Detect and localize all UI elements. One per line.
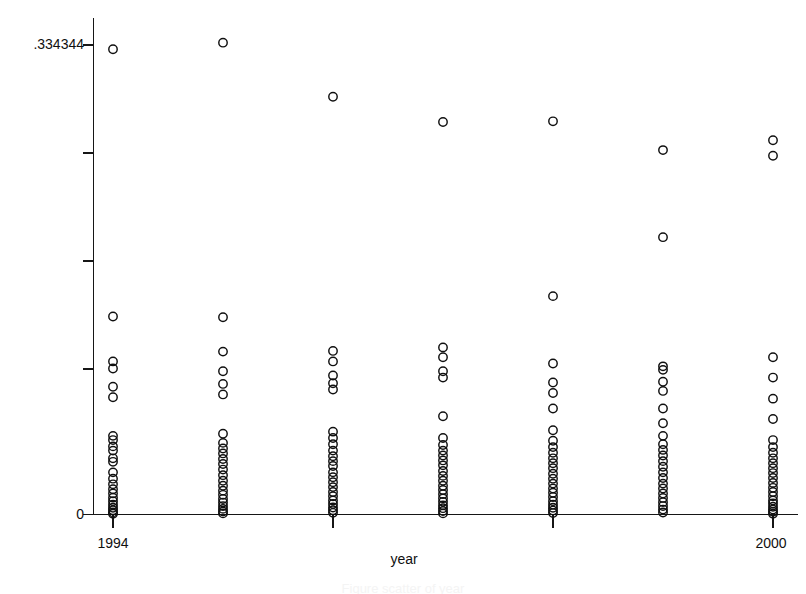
scatter-point: [219, 38, 227, 46]
scatter-point: [219, 390, 227, 398]
scatter-point: [219, 367, 227, 375]
scatter-point: [439, 412, 447, 420]
scatter-point: [769, 353, 777, 361]
scatter-point: [109, 312, 117, 320]
scatter-point: [329, 357, 337, 365]
scatter-point: [219, 380, 227, 388]
y-axis-bottom-tick-label: 0: [76, 506, 84, 522]
scatter-point: [109, 45, 117, 53]
scatter-plot-figure: .334344 0 1994 2000 year Figure scatter …: [0, 0, 806, 594]
scatter-point: [659, 233, 667, 241]
scatter-points-group: [109, 38, 777, 518]
scatter-point: [329, 93, 337, 101]
scatter-point: [549, 117, 557, 125]
scatter-point: [109, 393, 117, 401]
scatter-point: [549, 292, 557, 300]
scatter-point: [659, 419, 667, 427]
scatter-point: [439, 373, 447, 381]
x-axis-right-tick-label: 2000: [755, 535, 786, 551]
scatter-point: [659, 387, 667, 395]
scatter-point: [549, 378, 557, 386]
scatter-point: [769, 394, 777, 402]
x-axis-left-tick-label: 1994: [97, 535, 128, 551]
scatter-point: [659, 432, 667, 440]
plot-canvas: .334344 0 1994 2000 year: [0, 0, 806, 594]
x-axis-title: year: [390, 551, 418, 567]
scatter-point: [659, 146, 667, 154]
y-axis-top-tick-label: .334344: [33, 36, 84, 52]
scatter-point: [769, 152, 777, 160]
scatter-point: [659, 378, 667, 386]
scatter-point: [769, 136, 777, 144]
scatter-point: [329, 347, 337, 355]
x-axis-ticks: [113, 515, 773, 528]
scatter-point: [549, 389, 557, 397]
scatter-point: [549, 426, 557, 434]
scatter-point: [219, 313, 227, 321]
scatter-point: [439, 353, 447, 361]
scatter-point: [439, 118, 447, 126]
scatter-point: [109, 383, 117, 391]
y-axis: [83, 18, 94, 515]
scatter-point: [219, 347, 227, 355]
scatter-point: [549, 359, 557, 367]
scatter-point: [219, 430, 227, 438]
scatter-point: [769, 373, 777, 381]
scatter-point: [659, 404, 667, 412]
figure-caption-partial: Figure scatter of year: [0, 583, 806, 594]
scatter-point: [329, 385, 337, 393]
y-axis-ticks: [83, 45, 94, 515]
scatter-point: [439, 343, 447, 351]
scatter-point: [549, 404, 557, 412]
scatter-point: [769, 415, 777, 423]
